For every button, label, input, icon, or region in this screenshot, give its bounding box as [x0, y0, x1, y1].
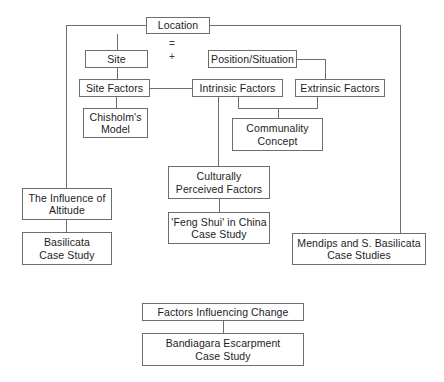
edge-position-extrinsic — [297, 59, 325, 79]
node-site-factors[interactable]: Site Factors — [79, 79, 150, 97]
node-factors-change[interactable]: Factors Influencing Change — [142, 303, 304, 321]
node-label-location: Location — [158, 19, 199, 31]
edge-intrinsic-communality — [238, 97, 317, 108]
node-label-influence: The Influence of Altitude — [29, 192, 106, 217]
node-influence[interactable]: The Influence of Altitude — [22, 188, 112, 220]
concept-map-diagram: LocationSitePosition/SituationSite Facto… — [0, 0, 444, 382]
node-label-position: Position/Situation — [211, 53, 294, 65]
node-label-chisholm: Chisholm's Model — [89, 111, 141, 136]
op-equals: = — [166, 39, 178, 49]
node-extrinsic[interactable]: Extrinsic Factors — [295, 79, 385, 97]
node-site[interactable]: Site — [85, 50, 148, 68]
node-label-site: Site — [107, 53, 126, 65]
node-chisholm[interactable]: Chisholm's Model — [83, 108, 148, 138]
node-label-intrinsic: Intrinsic Factors — [200, 82, 276, 94]
op-plus: + — [166, 52, 178, 62]
node-mendips[interactable]: Mendips and S. Basilicata Case Studies — [292, 233, 426, 265]
node-label-factors-change: Factors Influencing Change — [157, 306, 288, 318]
node-label-bandiagara: Bandiagara Escarpment Case Study — [166, 337, 281, 362]
node-label-basilicata: Basilicata Case Study — [39, 236, 94, 261]
node-label-mendips: Mendips and S. Basilicata Case Studies — [297, 237, 420, 262]
node-bandiagara[interactable]: Bandiagara Escarpment Case Study — [142, 333, 304, 366]
node-intrinsic[interactable]: Intrinsic Factors — [192, 79, 283, 97]
node-communality[interactable]: Communality Concept — [232, 118, 323, 151]
node-label-fengshui: 'Feng Shui' in China Case Study — [171, 216, 266, 241]
node-location[interactable]: Location — [146, 17, 210, 34]
node-label-extrinsic: Extrinsic Factors — [300, 82, 379, 94]
node-basilicata[interactable]: Basilicata Case Study — [22, 232, 112, 265]
node-label-communality: Communality Concept — [246, 122, 308, 147]
node-culturally[interactable]: Culturally Perceived Factors — [168, 166, 270, 199]
node-position[interactable]: Position/Situation — [208, 50, 297, 68]
node-label-culturally: Culturally Perceived Factors — [176, 170, 262, 195]
node-label-site-factors: Site Factors — [86, 82, 143, 94]
node-fengshui[interactable]: 'Feng Shui' in China Case Study — [168, 212, 270, 244]
